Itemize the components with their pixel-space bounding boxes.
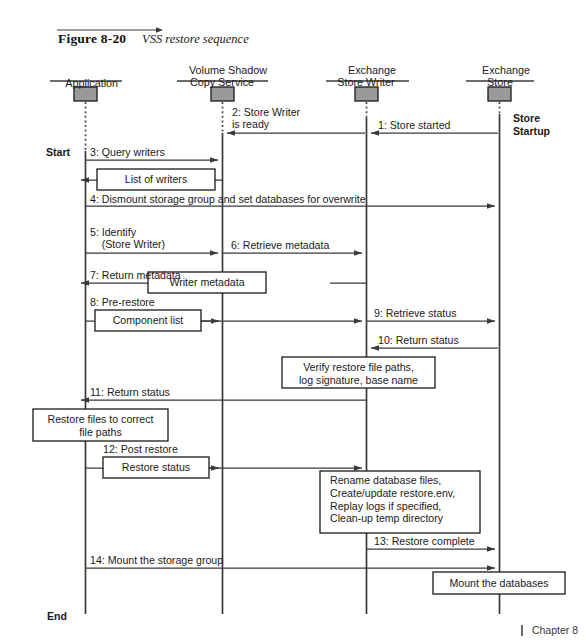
message-label-11: 11: Return status	[90, 386, 170, 398]
lifeline-label-store-writer: Exchange Store Writer	[316, 51, 416, 101]
page-footer: Chapter 8	[521, 624, 578, 636]
annotation-end: End	[47, 610, 67, 622]
note-label-verify-restore: Verify restore file paths, log signature…	[282, 361, 435, 387]
message-label-9: 9: Retrieve status	[374, 307, 456, 319]
lifeline-label-store-writer-text: Exchange Store Writer	[337, 64, 396, 89]
lifeline-label-vss: Volume Shadow Copy Service	[172, 51, 272, 101]
note-label-restore-files: Restore files to correct file paths	[33, 413, 168, 439]
note-label-mount-databases: Mount the databases	[433, 577, 565, 590]
note-label-list-of-writers: List of writers	[97, 173, 215, 186]
annotation-start: Start	[46, 146, 70, 158]
message-label-5: 5: Identify (Store Writer)	[90, 226, 165, 251]
annotation-store-startup: Store Startup	[513, 112, 550, 138]
figure-sequence-diagram: Figure 8-20 VSS restore sequence	[0, 0, 586, 641]
note-label-restore-status: Restore status	[103, 461, 209, 474]
note-label-rename-database: Rename database files, Create/update res…	[330, 474, 480, 525]
message-label-1: 1: Store started	[378, 119, 450, 131]
message-label-12: 12: Post restore	[103, 443, 178, 455]
lifeline-label-vss-text: Volume Shadow Copy Service	[189, 64, 267, 89]
note-label-writer-metadata: Writer metadata	[148, 276, 266, 289]
footer-separator-icon	[521, 625, 523, 636]
lifeline-label-application-text: Application	[65, 77, 118, 89]
message-label-6: 6: Retrieve metadata	[231, 239, 329, 251]
message-label-14: 14: Mount the storage group	[90, 554, 223, 566]
lifeline-label-exchange-store-text: Exchange Store	[482, 64, 530, 89]
footer-chapter-label: Chapter 8	[532, 624, 578, 636]
message-label-4: 4: Dismount storage group and set databa…	[90, 193, 366, 205]
note-label-component-list: Component list	[95, 314, 201, 327]
message-label-13: 13: Restore complete	[374, 535, 475, 547]
lifeline-label-application: Application	[36, 64, 136, 102]
message-label-3: 3: Query writers	[90, 146, 165, 158]
message-label-10: 10: Return status	[378, 334, 459, 346]
message-label-8: 8: Pre-restore	[90, 296, 155, 308]
message-label-2: 2: Store Writer is ready	[232, 106, 300, 131]
lifeline-label-exchange-store: Exchange Store	[450, 51, 550, 101]
